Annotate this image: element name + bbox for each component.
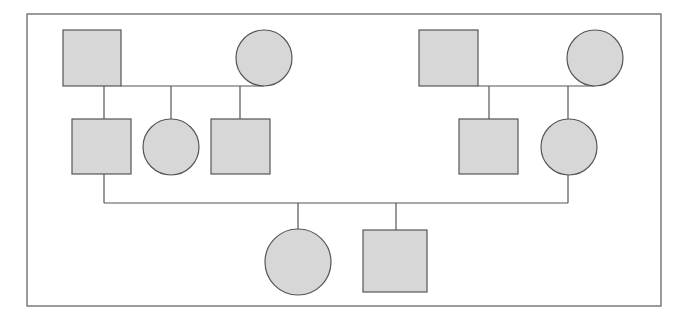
g1-maternal-grandfather-male-square xyxy=(419,30,478,86)
g2-mother-female-circle xyxy=(541,119,597,175)
g1-paternal-grandmother-female-circle xyxy=(236,30,292,86)
g1-maternal-grandmother-female-circle xyxy=(567,30,623,86)
g3-son-male-square xyxy=(363,230,427,292)
g2-paternal-aunt-female-circle xyxy=(143,119,199,175)
g2-maternal-uncle-male-square xyxy=(459,119,518,174)
g2-paternal-uncle-male-square xyxy=(211,119,270,174)
g1-paternal-grandfather-male-square xyxy=(63,30,121,86)
pedigree-diagram xyxy=(0,0,682,319)
g3-daughter-female-circle xyxy=(265,229,331,295)
g2-father-male-square xyxy=(72,119,131,174)
